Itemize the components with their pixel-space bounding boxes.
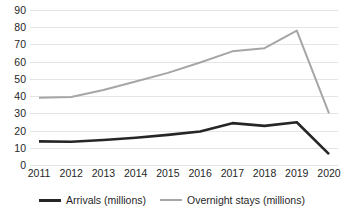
x-tick-label-2020: 2020 xyxy=(317,167,340,180)
x-tick-label-2011: 2011 xyxy=(28,167,51,180)
legend-item-overnight-stays[interactable]: Overnight stays (millions) xyxy=(160,194,305,206)
gridline-0 xyxy=(30,165,338,166)
x-tick-label-2014: 2014 xyxy=(124,167,147,180)
y-tick-label-70: 70 xyxy=(0,39,26,50)
y-tick-label-30: 30 xyxy=(0,108,26,119)
legend-swatch-arrivals-icon xyxy=(39,199,61,202)
x-tick-label-2017: 2017 xyxy=(221,167,244,180)
series-lines xyxy=(30,10,338,165)
x-tick-label-2019: 2019 xyxy=(285,167,308,180)
y-tick-label-0: 0 xyxy=(0,160,26,171)
x-tick-label-2012: 2012 xyxy=(60,167,83,180)
line-chart: 9080706050403020100 20112012201320142015… xyxy=(0,0,344,214)
series-line-arrivals-millions xyxy=(39,122,329,154)
y-axis: 9080706050403020100 xyxy=(0,10,26,165)
x-tick-label-2018: 2018 xyxy=(253,167,276,180)
x-tick-label-2016: 2016 xyxy=(188,167,211,180)
y-tick-label-50: 50 xyxy=(0,73,26,84)
series-line-overnight-stays-millions xyxy=(39,31,329,114)
x-tick-label-2015: 2015 xyxy=(156,167,179,180)
plot-area xyxy=(30,10,338,165)
legend-item-arrivals[interactable]: Arrivals (millions) xyxy=(39,194,146,206)
legend-label-arrivals: Arrivals (millions) xyxy=(66,194,146,206)
x-axis: 2011201220132014201520162017201820192020 xyxy=(30,167,338,183)
legend-label-overnight-stays: Overnight stays (millions) xyxy=(187,194,305,206)
y-tick-label-90: 90 xyxy=(0,5,26,16)
legend-swatch-overnight-stays-icon xyxy=(160,199,182,201)
y-tick-label-40: 40 xyxy=(0,91,26,102)
chart-legend: Arrivals (millions) Overnight stays (mil… xyxy=(0,189,344,211)
y-tick-label-80: 80 xyxy=(0,22,26,33)
x-tick-label-2013: 2013 xyxy=(92,167,115,180)
y-tick-label-60: 60 xyxy=(0,56,26,67)
y-tick-label-10: 10 xyxy=(0,142,26,153)
y-tick-label-20: 20 xyxy=(0,125,26,136)
